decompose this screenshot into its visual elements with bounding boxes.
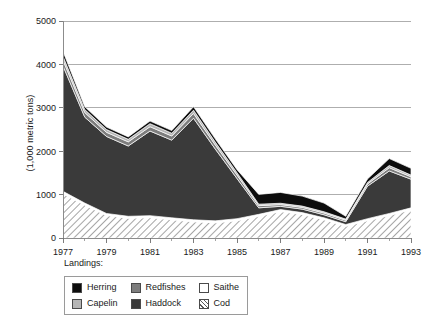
svg-text:0: 0 bbox=[51, 233, 56, 243]
legend-label-saithe: Saithe bbox=[214, 282, 240, 293]
series-areas bbox=[63, 51, 411, 238]
svg-text:1000: 1000 bbox=[36, 190, 56, 200]
legend-label-capelin: Capelin bbox=[87, 298, 118, 309]
svg-text:1981: 1981 bbox=[140, 247, 160, 257]
legend-label-redfishes: Redfishes bbox=[146, 282, 186, 293]
stacked-area-chart: 010002000300040005000 197719791981198319… bbox=[0, 0, 433, 331]
svg-text:5000: 5000 bbox=[36, 16, 56, 26]
svg-text:1985: 1985 bbox=[227, 247, 247, 257]
svg-text:4000: 4000 bbox=[36, 60, 56, 70]
svg-text:1987: 1987 bbox=[270, 247, 290, 257]
svg-text:1979: 1979 bbox=[96, 247, 116, 257]
saithe-swatch bbox=[199, 283, 209, 293]
legend-item-haddock[interactable]: Haddock bbox=[131, 298, 186, 309]
legend-label-cod: Cod bbox=[214, 298, 231, 309]
legend-item-herring[interactable]: Herring bbox=[72, 282, 118, 293]
y-axis-tick-labels: 010002000300040005000 bbox=[36, 16, 56, 243]
cod-swatch bbox=[199, 299, 209, 309]
legend-column-1: HerringCapelin bbox=[72, 282, 118, 309]
capelin-swatch bbox=[72, 299, 82, 309]
legend-caption: Landings: bbox=[64, 258, 103, 268]
legend-item-saithe[interactable]: Saithe bbox=[199, 282, 240, 293]
svg-text:1983: 1983 bbox=[183, 247, 203, 257]
svg-text:1991: 1991 bbox=[357, 247, 377, 257]
chart-legend: HerringCapelinRedfishesHaddockSaitheCod bbox=[64, 276, 248, 315]
legend-column-3: SaitheCod bbox=[199, 282, 240, 309]
svg-text:1993: 1993 bbox=[401, 247, 421, 257]
legend-label-herring: Herring bbox=[87, 282, 117, 293]
legend-item-cod[interactable]: Cod bbox=[199, 298, 240, 309]
svg-text:3000: 3000 bbox=[36, 103, 56, 113]
svg-text:1977: 1977 bbox=[53, 247, 73, 257]
x-axis-tick-labels: 197719791981198319851987198919911993 bbox=[53, 247, 421, 257]
legend-column-2: RedfishesHaddock bbox=[131, 282, 186, 309]
haddock-swatch bbox=[131, 299, 141, 309]
redfishes-swatch bbox=[131, 283, 141, 293]
svg-text:1989: 1989 bbox=[314, 247, 334, 257]
svg-text:2000: 2000 bbox=[36, 147, 56, 157]
legend-label-haddock: Haddock bbox=[146, 298, 182, 309]
y-axis-title: (1,000 metric tons) bbox=[25, 63, 35, 203]
herring-swatch bbox=[72, 283, 82, 293]
legend-item-capelin[interactable]: Capelin bbox=[72, 298, 118, 309]
legend-item-redfishes[interactable]: Redfishes bbox=[131, 282, 186, 293]
